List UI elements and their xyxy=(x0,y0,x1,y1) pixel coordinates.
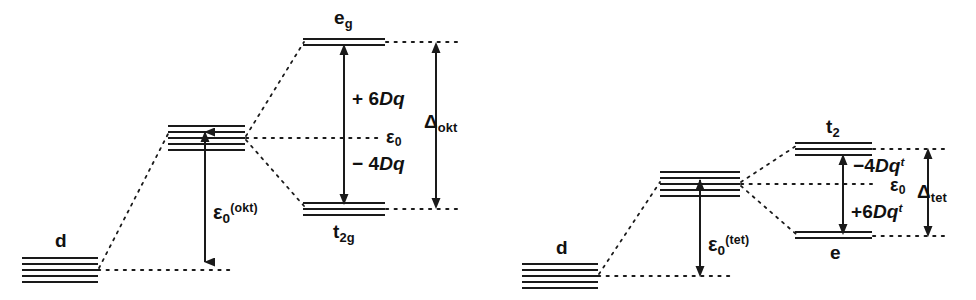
okt-lower-shift-label: − 4Dq xyxy=(352,154,405,173)
tet-splitting-arrow-head-down xyxy=(839,224,848,235)
okt-promotion-label: ε0(okt) xyxy=(213,202,258,225)
okt-delta-arrow-head-up xyxy=(432,42,441,53)
tet-splitting-label: Δtet xyxy=(917,182,947,205)
tet-e-level xyxy=(795,232,872,238)
okt-splitting-label: Δokt xyxy=(424,112,457,135)
tet-upper-shift-label: −4Dqt xyxy=(853,156,904,175)
tet-promotion-label: ε0(tet) xyxy=(708,234,749,257)
okt-delta-arrow-head-down xyxy=(432,198,441,209)
tet-fan-to-e xyxy=(741,186,796,234)
okt-eg-label: eg xyxy=(334,8,353,31)
okt-barycenter-label: ε0 xyxy=(386,128,402,149)
okt-t2g-label: t2g xyxy=(333,222,355,245)
tet-e-label: e xyxy=(830,243,841,266)
okt-free-ion-label: d xyxy=(55,231,67,250)
okt-correlation-rise xyxy=(99,134,168,268)
crystal-field-diagram: d eg t2g + 6Dq − 4Dq ε0 Δokt ε0(okt) d t… xyxy=(0,0,976,300)
tet-fan-to-t2 xyxy=(741,146,796,182)
tet-barycenter-label: ε0 xyxy=(890,176,906,197)
okt-upper-shift-label: + 6Dq xyxy=(352,89,405,108)
tet-correlation-rise xyxy=(599,182,660,274)
tet-lower-shift-label: +6Dqt xyxy=(851,202,902,221)
tet-t2-level xyxy=(795,143,872,155)
tet-free-ion-level xyxy=(522,264,598,288)
okt-fan-to-eg xyxy=(246,42,304,136)
tet-free-ion-label: d xyxy=(556,238,568,257)
okt-free-ion-level xyxy=(22,258,98,282)
tet-t2-label: t2 xyxy=(826,117,840,140)
okt-fan-to-t2g xyxy=(246,140,304,206)
